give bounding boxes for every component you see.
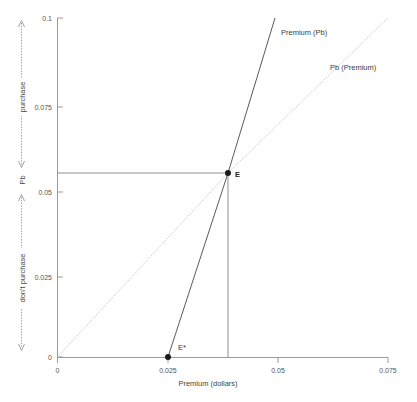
x-tick-label-0: 0 [56,367,60,374]
purchase-annotation-label: purchase [18,82,27,113]
x-tick-label-3: 0.075 [379,367,397,374]
y-tick-label-1: 0.025 [34,274,52,281]
marker-E-star [165,354,171,360]
dont-purchase-arrow-head-down [19,344,25,351]
label-E-star: E* [178,343,186,352]
y-tick-label-2: 0.05 [38,189,52,196]
premium-pb-curve [168,18,275,357]
pb-premium-curve-label: Pb (Premium) [330,63,377,72]
x-tick-label-2: 0.05 [271,367,285,374]
y-tick-label-4: 0.1 [42,15,52,22]
y-tick-label-3: 0.075 [34,104,52,111]
x-axis-title: Premium (dollars) [178,379,238,388]
pb-axis-annotation: Pb [18,175,27,184]
equilibrium-label-E: E [235,170,240,179]
series-premium-pb: Premium (Pb) [168,18,328,357]
dont-purchase-annotation-label: don't purchase [18,254,27,303]
x-tick-label-1: 0.025 [159,367,177,374]
premium-pb-curve-label: Premium (Pb) [281,28,328,37]
pb-axis-label: Pb [18,175,27,184]
equilibrium-marker-E [225,170,231,176]
equilibrium-point-E: E [225,170,240,179]
chart-svg: purchase Pb don't purchase 0.1 0.075 0.0… [0,0,417,402]
x-axis: 0 0.025 0.05 0.075 Premium (dollars) [56,358,397,389]
chart-figure: purchase Pb don't purchase 0.1 0.075 0.0… [0,0,417,402]
purchase-annotation: purchase [14,21,29,168]
y-tick-label-0: 0 [48,354,52,361]
y-axis: 0.1 0.075 0.05 0.025 0 [34,15,63,361]
dont-purchase-annotation: don't purchase [14,195,29,351]
